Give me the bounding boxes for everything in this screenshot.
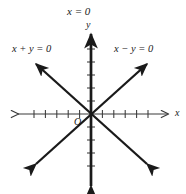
y-axis-label: y — [86, 20, 90, 30]
label-x-minus-y-equals-zero: x − y = 0 — [114, 44, 153, 55]
label-x-equals-zero: x = 0 — [67, 6, 90, 17]
origin-label: O — [74, 117, 81, 127]
x-axis-label: x — [175, 108, 179, 118]
axes-and-lines-svg — [0, 0, 186, 194]
label-x-plus-y-equals-zero: x + y = 0 — [12, 44, 51, 55]
coordinate-plane-figure: x = 0 y x O x + y = 0 x − y = 0 — [0, 0, 186, 194]
